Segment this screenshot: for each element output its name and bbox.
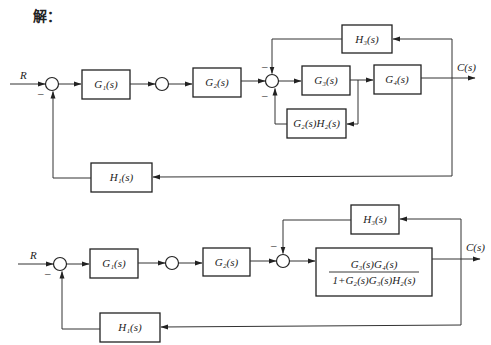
bottom-sum1-minus-sign: – <box>44 267 51 279</box>
top-sum3-minus-top: – <box>261 60 268 72</box>
bottom-combined-numerator: G₃(s)G₄(s) <box>351 258 398 271</box>
top-diagram: R – G₁(s) G₂(s) – – G₃(s) G₄(s) C(s) H <box>10 25 476 192</box>
bottom-summing-junction-1 <box>54 258 67 271</box>
top-block-h3-label: H₃(s) <box>354 33 379 46</box>
bottom-diagram: R – G₁(s) G₂(s) – G₃(s)G₄(s) 1+G₂(s)G₃(s… <box>18 205 485 342</box>
top-output-label: C(s) <box>457 61 476 74</box>
block-diagram-canvas: 解： R – G₁(s) G₂(s) – – G₃(s) G₄(s) C( <box>0 0 491 345</box>
bottom-input-label: R <box>29 249 37 261</box>
bottom-block-g1-label: G₁(s) <box>102 257 126 270</box>
top-block-g3-label: G₃(s) <box>314 74 338 87</box>
top-block-h1-label: H₁(s) <box>109 171 134 184</box>
top-block-g1-label: G₁(s) <box>94 78 118 91</box>
top-block-g2-label: G₂(s) <box>205 76 229 89</box>
top-summing-junction-3 <box>266 75 279 88</box>
bottom-output-label: C(s) <box>466 241 485 254</box>
top-input-label: R <box>19 69 27 81</box>
bottom-block-h3-label: H₃(s) <box>362 213 387 226</box>
top-summing-junction-2 <box>156 78 169 91</box>
top-block-g2h2-label: G₂(s)H₂(s) <box>293 117 340 130</box>
bottom-summing-junction-2 <box>166 257 179 270</box>
bottom-combined-denominator: 1+G₂(s)G₃(s)H₂(s) <box>332 274 415 287</box>
bottom-block-g2-label: G₂(s) <box>215 256 239 269</box>
top-block-g4-label: G₄(s) <box>385 73 409 86</box>
top-sum1-minus-sign: – <box>37 87 44 99</box>
top-sum3-minus-bottom: – <box>261 89 268 101</box>
solution-title: 解： <box>33 8 61 24</box>
bottom-block-h1-label: H₁(s) <box>117 321 142 334</box>
bottom-sum3-minus-top: – <box>270 239 277 251</box>
top-summing-junction-1 <box>46 78 59 91</box>
bottom-summing-junction-3 <box>277 255 290 268</box>
